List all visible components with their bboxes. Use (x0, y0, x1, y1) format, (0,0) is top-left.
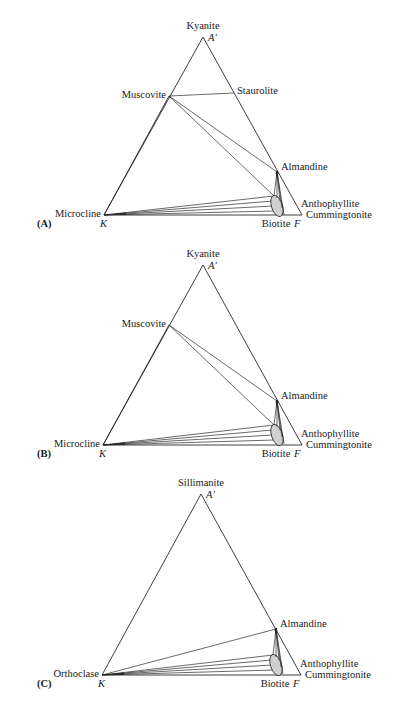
tie-line-k-biotite (103, 425, 274, 445)
tie-line-orthoclase-almandine (102, 629, 276, 675)
corner-label-f: F (293, 218, 301, 229)
apex-mineral-label: Kyanite (186, 20, 220, 31)
corner-label-k: K (99, 218, 108, 229)
akf-triangle (104, 37, 302, 215)
tie-line-muscovite-biotite (169, 96, 274, 196)
muscovite-label: Muscovite (122, 89, 167, 100)
muscovite-k-segment (104, 96, 169, 215)
biotite-label: Biotite (262, 448, 291, 459)
almandine-point (276, 400, 279, 403)
akf-triangle (103, 265, 302, 445)
biotite-label: Biotite (262, 218, 291, 229)
almandine-label: Almandine (281, 390, 328, 401)
tie-line-k-biotite (104, 196, 274, 215)
panel-label: (A) (37, 218, 52, 230)
panel-a: KyaniteA′MicroclineKFBiotiteAlmandineAnt… (37, 20, 372, 230)
tie-line-k-biotite (103, 435, 273, 445)
corner-label-f: F (293, 448, 301, 459)
cummingtonite-label: Cummingtonite (305, 669, 371, 680)
panel-label: (B) (37, 448, 52, 460)
corner-label-k: K (98, 448, 107, 459)
akf-triangle (102, 494, 301, 675)
anthophyllite-label: Anthophyllite (301, 198, 360, 209)
almandine-label: Almandine (281, 161, 328, 172)
almandine-point (275, 628, 278, 631)
left-mineral-label: Microcline (55, 208, 101, 219)
almandine-point (276, 171, 279, 174)
corner-label-a: A′ (207, 260, 217, 271)
left-mineral-label: Orthoclase (54, 668, 100, 679)
apex-mineral-label: Sillimanite (178, 477, 224, 488)
anthophyllite-label: Anthophyllite (300, 658, 359, 669)
corner-label-f: F (292, 678, 300, 689)
panel-label: (C) (37, 678, 52, 690)
almandine-label: Almandine (280, 618, 327, 629)
tie-line-muscovite-almandine (169, 96, 277, 172)
cummingtonite-label: Cummingtonite (306, 209, 372, 220)
corner-label-a: A′ (207, 32, 217, 43)
muscovite-k-segment (103, 325, 169, 445)
anthophyllite-label: Anthophyllite (301, 428, 360, 439)
tie-line-muscovite-biotite (169, 325, 274, 425)
tie-line-k-biotite (102, 655, 273, 675)
muscovite-label: Muscovite (122, 318, 167, 329)
corner-label-k: K (97, 678, 106, 689)
tie-line-muscovite-almandine (169, 325, 277, 401)
panel-c: SillimaniteA′OrthoclaseKFBiotiteAlmandin… (37, 477, 371, 690)
biotite-label: Biotite (261, 678, 290, 689)
tie-line-muscovite-staurolite (169, 93, 234, 96)
panel-b: KyaniteA′MicroclineKFBiotiteAlmandineAnt… (37, 248, 372, 460)
left-mineral-label: Microcline (54, 438, 100, 449)
akf-diagram-figure: KyaniteA′MicroclineKFBiotiteAlmandineAnt… (0, 0, 396, 707)
apex-mineral-label: Kyanite (186, 248, 220, 259)
cummingtonite-label: Cummingtonite (306, 439, 372, 450)
staurolite-label: Staurolite (237, 85, 278, 96)
tie-line-k-biotite (104, 206, 273, 215)
tie-line-k-biotite (102, 665, 272, 675)
corner-label-a: A′ (205, 489, 215, 500)
